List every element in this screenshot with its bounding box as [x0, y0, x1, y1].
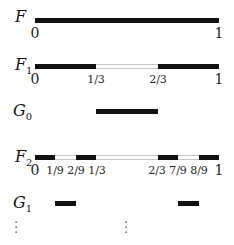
- tick-F1-2-3: 2/3: [149, 74, 167, 85]
- tick-F1-0: 0: [31, 72, 40, 86]
- removed-gap-F2-middle: [96, 155, 158, 160]
- tick-F2-1-3: 1/3: [88, 165, 106, 176]
- row-label-F: F: [15, 9, 26, 25]
- tick-F-1: 1: [215, 26, 224, 40]
- segment-F2-1: [35, 155, 55, 160]
- segment-F1-left: [35, 64, 96, 69]
- segment-G1-left: [55, 201, 76, 206]
- tick-F1-1: 1: [215, 72, 224, 86]
- ellipsis-left: ···: [14, 220, 18, 235]
- removed-gap-F2-2: [178, 155, 199, 160]
- ellipsis-middle: ···: [124, 220, 128, 235]
- tick-F2-7-9: 7/9: [169, 165, 187, 176]
- tick-F2-0: 0: [31, 163, 40, 177]
- tick-F2-2-9: 2/9: [67, 165, 85, 176]
- tick-F2-8-9: 8/9: [190, 165, 208, 176]
- segment-F2-4: [199, 155, 219, 160]
- segment-F-0-1: [35, 18, 219, 23]
- row-label-G1: G1: [13, 195, 32, 214]
- segment-F2-2: [76, 155, 96, 160]
- removed-gap-F2-1: [55, 155, 76, 160]
- tick-F-0: 0: [31, 26, 40, 40]
- tick-F1-1-3: 1/3: [87, 74, 105, 85]
- segment-G0-middle: [96, 109, 158, 114]
- segment-G1-right: [178, 201, 199, 206]
- row-label-G0: G0: [13, 103, 32, 122]
- segment-F1-right: [158, 64, 219, 69]
- segment-F2-3: [158, 155, 178, 160]
- tick-F2-2-3: 2/3: [148, 165, 166, 176]
- tick-F2-1: 1: [215, 163, 224, 177]
- removed-gap-F1-middle: [96, 64, 158, 69]
- tick-F2-1-9: 1/9: [46, 165, 64, 176]
